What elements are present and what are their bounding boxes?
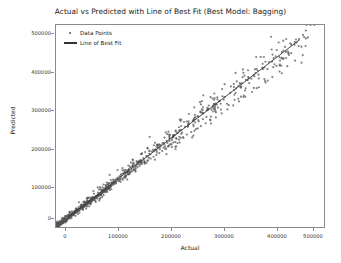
scatter-point	[165, 131, 167, 133]
scatter-point	[286, 65, 288, 67]
scatter-point	[300, 46, 302, 48]
x-tick-mark	[313, 228, 314, 231]
scatter-point	[226, 108, 228, 110]
scatter-point	[197, 119, 199, 121]
plot-canvas	[56, 25, 324, 227]
scatter-point	[202, 106, 204, 108]
scatter-point	[174, 146, 176, 148]
scatter-point	[247, 76, 249, 78]
x-tick-mark	[277, 228, 278, 231]
chart-title: Actual vs Predicted with Line of Best Fi…	[0, 7, 341, 16]
scatter-point	[62, 220, 64, 222]
scatter-point	[193, 130, 195, 132]
scatter-point	[281, 72, 283, 74]
scatter-point	[208, 104, 210, 106]
scatter-point	[282, 40, 284, 42]
x-tick-label: 100000	[92, 233, 144, 239]
scatter-point	[146, 147, 148, 149]
scatter-point	[202, 118, 204, 120]
scatter-point	[194, 114, 196, 116]
scatter-point	[191, 136, 193, 138]
y-tick-mark	[51, 218, 54, 219]
scatter-point	[152, 156, 154, 158]
chart-legend: Data Points Line of Best Fit	[62, 28, 148, 48]
scatter-point	[230, 85, 232, 87]
scatter-point	[279, 64, 281, 66]
x-tick-mark	[118, 228, 119, 231]
scatter-point	[200, 103, 202, 105]
scatter-point	[303, 36, 305, 38]
scatter-point	[109, 174, 111, 176]
scatter-point	[88, 205, 90, 207]
scatter-point	[247, 69, 249, 71]
scatter-point	[211, 97, 213, 99]
scatter-point	[178, 139, 180, 141]
scatter-point	[194, 117, 196, 119]
scatter-point	[126, 178, 128, 180]
scatter-point	[75, 208, 77, 210]
scatter-point	[267, 80, 269, 82]
scatter-point	[139, 163, 141, 165]
scatter-point	[174, 141, 176, 143]
scatter-point	[180, 125, 182, 127]
scatter-point	[234, 72, 236, 74]
scatter-point	[124, 169, 126, 171]
scatter-point	[278, 41, 280, 43]
scatter-point	[305, 30, 307, 32]
scatter-point	[124, 176, 126, 178]
scatter-point	[188, 113, 190, 115]
scatter-point	[233, 83, 235, 85]
scatter-point	[193, 106, 195, 108]
scatter-point	[180, 119, 182, 121]
scatter-point	[159, 148, 161, 150]
scatter-point	[257, 74, 259, 76]
scatter-point	[171, 146, 173, 148]
scatter-point	[200, 125, 202, 127]
scatter-point	[215, 116, 217, 118]
scatter-point	[233, 86, 235, 88]
scatter-point	[99, 186, 101, 188]
scatter-point	[169, 134, 171, 136]
scatter-point	[224, 83, 226, 85]
scatter-point	[192, 125, 194, 127]
y-tick-mark	[51, 33, 54, 34]
scatter-point	[220, 109, 222, 111]
scatter-point	[275, 65, 277, 67]
scatter-point	[270, 36, 272, 38]
scatter-point	[209, 96, 211, 98]
scatter-point	[239, 82, 241, 84]
scatter-point	[136, 160, 138, 162]
scatter-point	[154, 159, 156, 161]
scatter-point	[95, 197, 97, 199]
y-tick-mark	[51, 72, 54, 73]
scatter-point	[180, 133, 182, 135]
scatter-point	[103, 194, 105, 196]
scatter-point	[282, 57, 284, 59]
scatter-point	[65, 218, 67, 220]
scatter-point	[97, 186, 99, 188]
scatter-point	[306, 25, 308, 26]
scatter-point	[131, 169, 133, 171]
scatter-point	[186, 120, 188, 122]
scatter-point	[98, 200, 100, 202]
y-tick-mark	[51, 187, 54, 188]
scatter-point	[232, 104, 234, 106]
x-tick-label: 300000	[198, 233, 250, 239]
scatter-point	[210, 109, 212, 111]
scatter-point	[154, 142, 156, 144]
scatter-point	[188, 120, 190, 122]
scatter-point	[263, 56, 265, 58]
scatter-point	[163, 137, 165, 139]
scatter-point	[121, 167, 123, 169]
x-tick-mark	[65, 228, 66, 231]
scatter-point	[221, 95, 223, 97]
scatter-point	[264, 61, 266, 63]
scatter-point	[271, 48, 273, 50]
scatter-point	[131, 159, 133, 161]
scatter-point	[201, 100, 203, 102]
scatter-point	[135, 170, 137, 172]
y-axis-ticks: 500000 400000 300000 200000 100000 0	[0, 0, 51, 263]
scatter-point	[178, 141, 180, 143]
y-tick-label: 100000	[3, 184, 51, 190]
scatter-point	[242, 72, 244, 74]
